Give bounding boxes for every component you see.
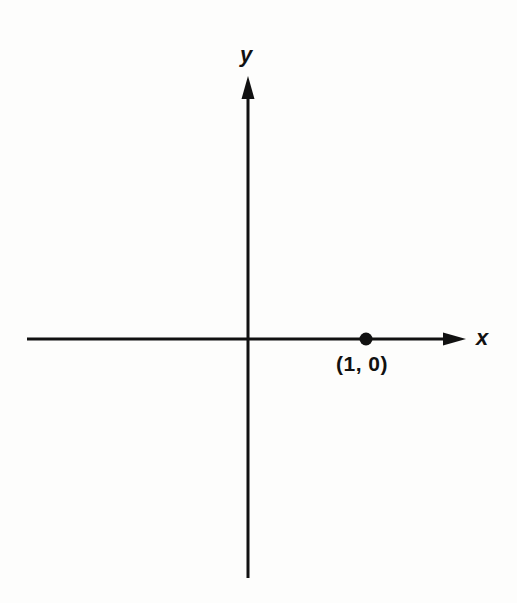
data-point-marker bbox=[360, 333, 373, 346]
coordinate-axes-graphic bbox=[0, 0, 517, 603]
y-axis-arrowhead bbox=[242, 76, 255, 99]
y-axis-label: y bbox=[240, 44, 252, 66]
coordinate-plane-figure: y x (1, 0) bbox=[0, 0, 517, 603]
x-axis-arrowhead bbox=[443, 333, 466, 346]
point-coordinate-label: (1, 0) bbox=[336, 353, 388, 374]
x-axis-label: x bbox=[476, 327, 488, 349]
